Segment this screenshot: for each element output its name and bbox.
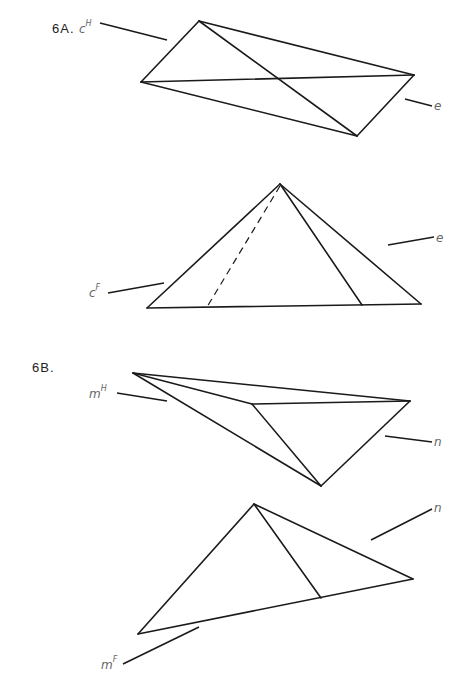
plane-m-f-label: mF: [101, 655, 118, 672]
plane-c-leader-line: [100, 23, 167, 40]
edge: [357, 75, 414, 136]
edge: [252, 404, 321, 486]
line-n-leader-line: [385, 436, 432, 442]
line-n-leader-line: [371, 509, 432, 540]
edge: [147, 184, 280, 308]
plane-m-leader-line: [117, 393, 167, 401]
hidden-edge: [207, 186, 280, 307]
edge: [254, 504, 413, 579]
line-e-h-label: e: [434, 99, 441, 113]
line-n-h-label: n: [434, 435, 442, 449]
edge: [199, 21, 414, 75]
line-e-f-label: e: [436, 231, 443, 245]
plane-m-h-label: mH: [89, 384, 107, 401]
edge: [280, 184, 362, 305]
plane-c-f-label: cF: [89, 283, 101, 300]
edge: [147, 304, 421, 308]
plane-c-h-label: cH: [79, 19, 92, 36]
figure-6b-frontal-view: mF n: [101, 501, 442, 672]
plane-m-leader-line: [123, 627, 199, 664]
line-e-leader-line: [405, 99, 432, 106]
edge: [133, 373, 252, 404]
plane-c-leader-line: [108, 283, 164, 293]
figure-6a-horizontal-view: cH e: [79, 19, 441, 136]
line-e-leader-line: [388, 237, 434, 245]
figure-6b-horizontal-view: mH n: [89, 373, 442, 486]
figure-6b-label: 6B.: [32, 360, 55, 375]
line-n-f-label: n: [434, 501, 442, 515]
edge: [141, 82, 357, 136]
edge: [321, 401, 410, 486]
edge: [280, 184, 421, 304]
edge: [133, 373, 410, 401]
figure-6a-label: 6A.: [52, 21, 75, 36]
descriptive-geometry-diagram: 6A. cH e cF e 6B. mH n: [0, 0, 466, 690]
edge: [141, 21, 199, 82]
edge: [199, 21, 357, 136]
edge: [254, 504, 321, 598]
figure-6a-frontal-view: cF e: [89, 184, 443, 308]
edge: [252, 401, 410, 404]
